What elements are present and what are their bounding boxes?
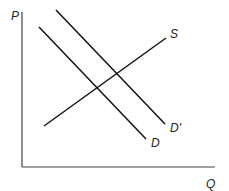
shifted-demand-label: D': [170, 121, 182, 135]
demand-label: D: [151, 136, 160, 150]
demand-curve: [39, 27, 146, 139]
supply-label: S: [170, 27, 178, 41]
supply-demand-diagram: P Q S D D': [0, 0, 229, 191]
shifted-demand-curve: [56, 10, 165, 124]
x-axis-label: Q: [206, 177, 215, 191]
y-axis-label: P: [11, 9, 19, 23]
